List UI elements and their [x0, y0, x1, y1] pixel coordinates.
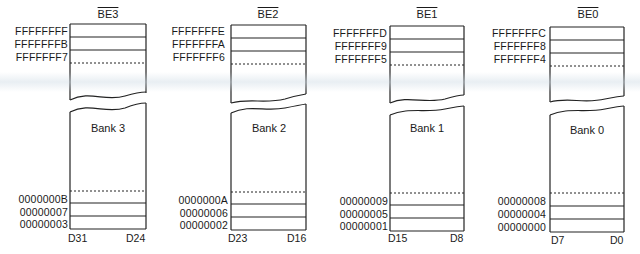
address-label: 00000004	[480, 208, 546, 220]
bank-name: Bank 0	[549, 124, 625, 136]
bank-1: BE1 FFFFFFFD FFFFFFF9 FFFFFFF5 Bank 1 00…	[320, 0, 480, 254]
address-label: 00000001	[322, 220, 388, 232]
data-bit-lsb: D0	[610, 234, 623, 246]
address-label: 00000006	[162, 207, 228, 219]
data-bit-lsb: D16	[287, 232, 306, 244]
bank-name: Bank 2	[231, 122, 307, 134]
data-bit-msb: D31	[68, 232, 87, 244]
address-label: 00000008	[480, 195, 546, 207]
data-bit-lsb: D8	[450, 232, 463, 244]
address-label: 00000000	[480, 221, 546, 233]
bank-name: Bank 3	[70, 122, 146, 134]
address-label: 0000000A	[162, 194, 228, 206]
data-bit-msb: D7	[551, 234, 564, 246]
bank-3: BE3 FFFFFFFF FFFFFFFB FFFFFFF7 Bank 3 00…	[0, 0, 160, 254]
data-bit-msb: D23	[228, 232, 247, 244]
bank-0: BE0 FFFFFFFC FFFFFFF8 FFFFFFF4 Bank 0 00…	[480, 0, 640, 254]
bank-name: Bank 1	[389, 122, 465, 134]
address-label: 00000002	[162, 219, 228, 231]
data-bit-msb: D15	[388, 232, 407, 244]
address-label: 00000009	[322, 195, 388, 207]
bank-2: BE2 FFFFFFFE FFFFFFFA FFFFFFF6 Bank 2 00…	[160, 0, 320, 254]
address-label: 00000007	[2, 206, 68, 218]
address-label: 00000003	[2, 218, 68, 230]
address-label: 0000000B	[2, 193, 68, 205]
data-bit-lsb: D24	[126, 232, 145, 244]
address-label: 00000005	[322, 208, 388, 220]
